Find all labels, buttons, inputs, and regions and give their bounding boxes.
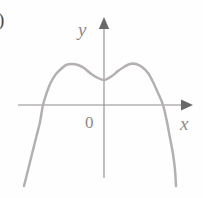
curve-path [24, 64, 176, 186]
graph-canvas: ) y x 0 [0, 0, 203, 198]
origin-label: 0 [85, 113, 94, 132]
x-axis-arrowhead [181, 100, 193, 111]
x-axis-label: x [179, 113, 189, 134]
figure-container: ) y x 0 [0, 0, 203, 198]
y-axis-arrowhead [99, 17, 109, 29]
y-axis-label: y [76, 19, 87, 40]
figure-corner-label: ) [0, 9, 4, 31]
